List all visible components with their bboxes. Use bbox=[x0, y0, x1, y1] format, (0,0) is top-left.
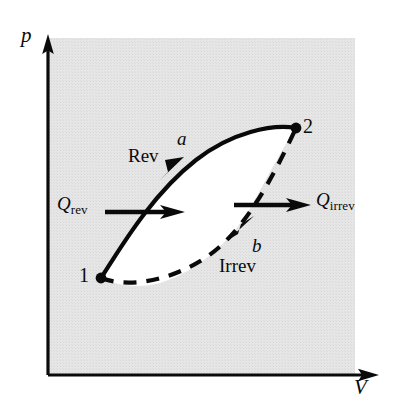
process-label-reversible: Rev bbox=[128, 146, 159, 165]
x-axis-label: V bbox=[354, 377, 367, 398]
state-point-2 bbox=[291, 123, 302, 134]
path-letter-a: a bbox=[177, 129, 187, 148]
y-axis-label: p bbox=[21, 25, 32, 46]
path-letter-b: b bbox=[252, 236, 262, 255]
plot-shading bbox=[48, 38, 355, 375]
heat-label-q-rev: Qrev bbox=[57, 194, 88, 216]
q-rev-subscript: rev bbox=[71, 202, 88, 217]
state-label-2: 2 bbox=[303, 116, 313, 136]
q-irrev-subscript: irrev bbox=[330, 198, 355, 213]
heat-label-q-irrev: Qirrev bbox=[316, 190, 355, 212]
q-irrev-symbol: Q bbox=[316, 189, 330, 210]
pv-diagram-figure: p V 1 2 a b Rev Irrev Qrev Qirrev bbox=[0, 0, 395, 405]
state-label-1: 1 bbox=[79, 265, 89, 285]
state-point-1 bbox=[96, 273, 107, 284]
q-rev-symbol: Q bbox=[57, 193, 71, 214]
process-label-irreversible: Irrev bbox=[219, 256, 256, 275]
